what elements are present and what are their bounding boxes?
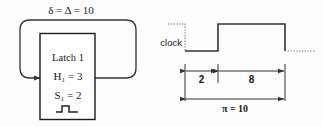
waveform-active-pulse bbox=[185, 24, 285, 51]
period-label: π = 10 bbox=[185, 104, 285, 114]
latch-title: Latch 1 bbox=[40, 53, 96, 64]
dimension-low-label: 2 bbox=[185, 75, 218, 85]
dimension-high-label: 8 bbox=[218, 75, 285, 85]
delay-label: δ = Δ = 10 bbox=[0, 5, 142, 16]
hold-time-label: H₁ = 3 bbox=[40, 71, 96, 82]
latch-timing-diagram: δ = Δ = 10 Latch 1 H₁ = 3 S₁ = 2 clock 2… bbox=[0, 0, 323, 127]
clock-signal-label: clock bbox=[142, 38, 182, 48]
clock-waveform bbox=[168, 24, 316, 51]
setup-time-label: S₁ = 2 bbox=[40, 90, 96, 101]
